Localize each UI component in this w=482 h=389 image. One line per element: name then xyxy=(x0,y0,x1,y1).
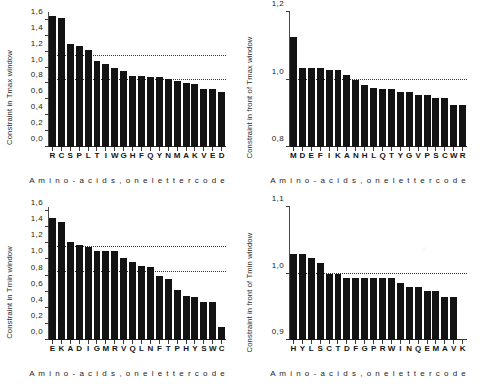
x-axis-tick-label: P xyxy=(173,344,182,353)
bar-slot xyxy=(128,12,137,147)
x-axis-tick-label: R xyxy=(458,151,467,160)
bar-slot xyxy=(458,12,467,147)
bar-slot xyxy=(75,207,84,340)
bar xyxy=(120,258,127,340)
y-axis-tick-label: 0,8 xyxy=(31,262,43,271)
y-axis-tick-label: 1,4 xyxy=(31,214,43,223)
bar xyxy=(209,89,216,147)
bar-slot xyxy=(191,12,200,147)
bar-slot xyxy=(378,207,387,340)
y-axis-tick-label: 0,2 xyxy=(31,310,43,319)
x-axis-tick-label: I xyxy=(325,151,334,160)
bar xyxy=(191,297,198,340)
bar xyxy=(406,92,413,147)
x-axis-tick-label: P xyxy=(369,344,378,353)
bar xyxy=(129,76,136,147)
x-axis-tick-label: M xyxy=(432,344,441,353)
x-axis-tick-label: N xyxy=(164,151,173,160)
x-axis-tick-label: Q xyxy=(414,344,423,353)
bar-slot xyxy=(325,12,334,147)
x-axis-tick-label: V xyxy=(119,344,128,353)
bar xyxy=(361,85,368,147)
bar-slot xyxy=(101,12,110,147)
bar-slot xyxy=(57,207,66,340)
bar xyxy=(120,71,127,147)
bar-slot xyxy=(351,207,360,340)
x-axis-tick-label: S xyxy=(316,344,325,353)
x-axis-tick-label: F xyxy=(137,151,146,160)
x-axis-tick-label: Q xyxy=(146,151,155,160)
x-axis-tick-label: M xyxy=(289,151,298,160)
bar xyxy=(138,266,145,340)
bar-slot xyxy=(155,207,164,340)
bar-slot xyxy=(387,12,396,147)
y-axis-title-text: Constraint in Tmax window xyxy=(5,50,14,145)
bar xyxy=(388,278,395,340)
bar-series xyxy=(48,207,226,340)
x-axis-tick-label: V xyxy=(449,344,458,353)
bar xyxy=(343,75,350,147)
bar-slot xyxy=(325,207,334,340)
bar xyxy=(317,68,324,147)
bar xyxy=(308,68,315,147)
bar xyxy=(299,254,306,340)
bar-slot xyxy=(432,12,441,147)
bar-slot xyxy=(440,12,449,147)
bar-slot xyxy=(119,12,128,147)
bar-slot xyxy=(93,207,102,340)
bar xyxy=(156,77,163,147)
bar xyxy=(209,302,216,340)
x-axis-tick-label: T xyxy=(387,151,396,160)
y-axis-tick-label: 0,9 xyxy=(272,327,284,336)
bar xyxy=(370,278,377,340)
bar-slot xyxy=(57,12,66,147)
bar xyxy=(432,291,439,340)
bar xyxy=(308,258,315,340)
bar xyxy=(326,70,333,147)
bar-slot xyxy=(307,207,316,340)
x-axis-tick-label: F xyxy=(155,344,164,353)
x-axis-tick-label: L xyxy=(307,344,316,353)
x-axis-tick-label: Y xyxy=(396,151,405,160)
bar xyxy=(76,46,83,147)
x-axis-tick-label: E xyxy=(423,344,432,353)
bar xyxy=(290,254,297,340)
x-axis-tick-label: G xyxy=(93,344,102,353)
plot-area: 0,81,01,2MDEFIKANHLQTYGVPSCWR xyxy=(289,12,467,147)
x-axis-tick-label: H xyxy=(182,344,191,353)
y-axis-tick-label: 0,6 xyxy=(31,86,43,95)
bar xyxy=(441,98,448,147)
x-axis-tick-label: V xyxy=(199,151,208,160)
bar-slot xyxy=(414,12,423,147)
x-axis-tick-label: R xyxy=(48,151,57,160)
bar-slot xyxy=(396,12,405,147)
x-axis-tick-label: K xyxy=(57,344,66,353)
y-axis-tick-label: 1,1 xyxy=(272,194,284,203)
bar-slot xyxy=(414,207,423,340)
x-axis-tick-label: I xyxy=(101,151,110,160)
bar-slot xyxy=(155,12,164,147)
y-axis-tick-label: 0,0 xyxy=(31,134,43,143)
x-axis-tick-label: S xyxy=(432,151,441,160)
y-axis-tick-label: 1,2 xyxy=(31,38,43,47)
bar xyxy=(352,278,359,340)
bar xyxy=(111,68,118,147)
bar xyxy=(67,242,74,340)
bar-slot xyxy=(75,12,84,147)
bar-series xyxy=(289,207,467,340)
x-axis-tick-label: Q xyxy=(378,151,387,160)
bar-slot xyxy=(146,207,155,340)
x-axis-tick-label: A xyxy=(342,151,351,160)
bar-series xyxy=(289,12,467,147)
bar-slot xyxy=(405,12,414,147)
bar-slot xyxy=(164,207,173,340)
bar xyxy=(49,218,56,340)
bar-slot xyxy=(458,207,467,340)
bar-slot xyxy=(378,12,387,147)
bar xyxy=(94,251,101,340)
x-axis-tick-label: S xyxy=(66,151,75,160)
bar-slot xyxy=(137,207,146,340)
y-axis-tick-label: 0,0 xyxy=(31,327,43,336)
bar xyxy=(361,278,368,340)
y-axis-tick-label: 1,2 xyxy=(31,230,43,239)
